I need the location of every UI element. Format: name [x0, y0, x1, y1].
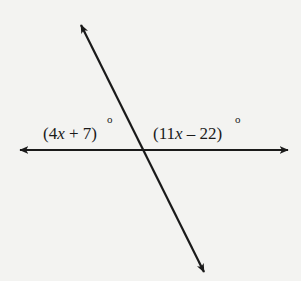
degree-symbol-left: o [107, 114, 113, 125]
coefficient: 4 [49, 124, 58, 143]
angle-label-left: (4x + 7) [43, 125, 97, 142]
variable-x: x [57, 124, 65, 143]
variable-x: x [175, 124, 183, 143]
coefficient: 11 [159, 124, 175, 143]
expression-rest: + 7) [65, 124, 97, 143]
expression-rest: – 22) [183, 124, 223, 143]
angle-label-right: (11x – 22) [153, 125, 222, 142]
transversal-line [81, 25, 204, 272]
degree-symbol-right: o [235, 114, 241, 125]
